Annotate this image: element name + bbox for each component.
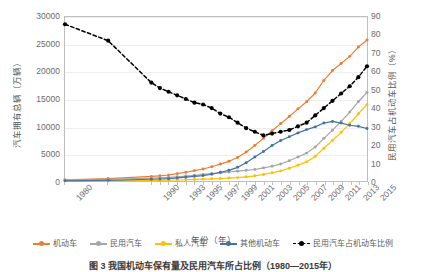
series-marker [340, 122, 343, 125]
x-axis-tick-label: 2011 [344, 183, 363, 202]
series-marker [296, 107, 299, 110]
y-axis-right-tick-label: 10 [371, 159, 380, 168]
series-marker [314, 146, 317, 149]
series-marker [202, 174, 205, 177]
series-marker [236, 170, 239, 173]
series-marker [245, 175, 248, 178]
series-marker [305, 152, 308, 155]
series-marker [348, 55, 351, 58]
series-marker [253, 130, 257, 134]
series-marker [366, 103, 369, 106]
legend-item[interactable]: 机动车 [33, 240, 77, 248]
x-axis-tick-label: 2007 [309, 183, 328, 202]
series-marker [166, 90, 170, 94]
series-marker [244, 126, 248, 130]
legend-swatch-icon [155, 240, 172, 248]
series-marker [253, 155, 256, 158]
series-marker [279, 163, 282, 166]
series-marker [287, 128, 291, 132]
legend-item-label: 民用汽车占机动车比例 [313, 240, 393, 248]
series-marker [202, 167, 205, 170]
series-marker [322, 106, 326, 110]
series-marker [184, 178, 187, 181]
series-marker [236, 176, 239, 179]
series-marker [357, 46, 360, 49]
series-marker [262, 166, 265, 169]
series-marker [63, 22, 67, 26]
series-marker [331, 120, 334, 123]
y-axis-right-tick-label: 60 [371, 67, 380, 76]
y-axis-right-tick-label: 30 [371, 122, 380, 131]
series-marker [176, 172, 179, 175]
series-marker [348, 124, 351, 127]
legend-swatch-icon [90, 240, 107, 248]
y-axis-right-tick-label: 20 [371, 141, 380, 150]
series-marker [253, 144, 256, 147]
series-lines [65, 17, 367, 181]
series-marker [288, 159, 291, 162]
series-marker [296, 164, 299, 167]
x-axis-ticks: 1980199019931995199719992001200320052007… [64, 183, 368, 229]
legend-swatch-icon [220, 240, 237, 248]
series-marker [348, 84, 352, 88]
y-axis-right-tick-label: 70 [371, 49, 380, 58]
series-marker [339, 91, 343, 95]
x-axis-tick-label: 1990 [161, 183, 180, 202]
legend-item[interactable]: 民用汽车 [90, 240, 142, 248]
x-axis-tick-label: 2015 [379, 183, 398, 202]
series-line [65, 24, 367, 135]
x-axis-tick-label: 2013 [361, 183, 380, 202]
series-marker [184, 97, 188, 101]
y-axis-left-tick-label: 10000 [36, 122, 60, 131]
series-marker [357, 100, 360, 103]
series-marker [313, 113, 317, 117]
y-axis-left-ticks: 050001000015000200002500030000 [14, 16, 60, 182]
series-marker [227, 169, 230, 172]
series-marker [184, 171, 187, 174]
y-axis-left-tick-label: 30000 [36, 12, 60, 21]
series-marker [167, 177, 170, 180]
series-marker [202, 178, 205, 181]
series-marker [305, 100, 308, 103]
series-marker [305, 121, 309, 125]
legend-item[interactable]: 其他机动车 [220, 240, 280, 248]
x-axis-tick-label: 2001 [257, 183, 276, 202]
legend-item-label: 其他机动车 [240, 240, 280, 248]
series-marker [271, 144, 274, 147]
series-marker [322, 137, 325, 140]
series-marker [262, 150, 265, 153]
series-marker [322, 147, 325, 150]
series-marker [322, 79, 325, 82]
series-marker [150, 178, 153, 181]
y-axis-right-tick-label: 90 [371, 12, 380, 21]
series-marker [227, 177, 230, 180]
series-marker [365, 64, 369, 68]
series-marker [227, 160, 230, 163]
x-axis-tick-label: 1995 [205, 183, 224, 202]
series-marker [193, 175, 196, 178]
series-marker [218, 112, 222, 116]
series-marker [279, 139, 282, 142]
series-marker [340, 131, 343, 134]
series-marker [279, 130, 283, 134]
series-marker [149, 81, 153, 85]
series-marker [296, 124, 300, 128]
series-marker [322, 122, 325, 125]
legend-item[interactable]: 民用汽车占机动车比例 [293, 240, 393, 248]
series-marker [366, 38, 369, 41]
series-marker [366, 127, 369, 130]
series-marker [357, 112, 360, 115]
legend-item-label: 民用汽车 [110, 240, 142, 248]
x-axis-tick-label: 2003 [274, 183, 293, 202]
series-marker [288, 115, 291, 118]
legend-item[interactable]: 私人汽车 [155, 240, 207, 248]
y-axis-left-tick-label: 15000 [36, 95, 60, 104]
series-marker [219, 163, 222, 166]
series-marker [271, 171, 274, 174]
y-axis-right-ticks: 0102030405060708090 [371, 16, 393, 182]
series-marker [331, 69, 334, 72]
series-marker [245, 161, 248, 164]
series-marker [262, 173, 265, 176]
series-marker [305, 160, 308, 163]
